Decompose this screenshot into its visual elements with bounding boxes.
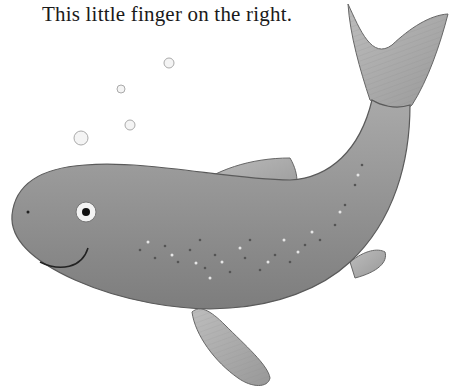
- pectoral-fin: [192, 309, 270, 386]
- fish-illustration: [0, 0, 461, 389]
- tail-fin: [348, 4, 448, 110]
- bubbles: [74, 58, 174, 145]
- fish-nostril: [27, 211, 30, 214]
- fish-eye: [76, 202, 96, 222]
